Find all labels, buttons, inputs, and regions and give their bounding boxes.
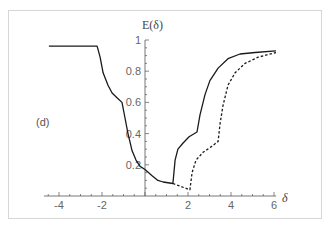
panel-label: (d) xyxy=(36,116,49,128)
series-dashed-line xyxy=(173,53,276,190)
x-axis-title: δ xyxy=(282,191,288,205)
y-tick-label: 0.8 xyxy=(126,65,141,77)
y-axis-title: E(δ) xyxy=(142,18,163,32)
x-tick-label: -2 xyxy=(97,199,107,211)
axes: -4-22460.20.40.60.81 xyxy=(44,34,277,211)
line-chart: -4-22460.20.40.60.81 E(δ) δ (d) xyxy=(0,0,327,226)
y-tick-label: 1 xyxy=(135,34,141,46)
x-tick-label: 6 xyxy=(271,199,277,211)
x-tick-label: 4 xyxy=(228,199,234,211)
data-series xyxy=(49,46,276,190)
x-tick-label: -4 xyxy=(54,199,64,211)
y-tick-label: 0.6 xyxy=(126,96,141,108)
x-tick-label: 2 xyxy=(185,199,191,211)
